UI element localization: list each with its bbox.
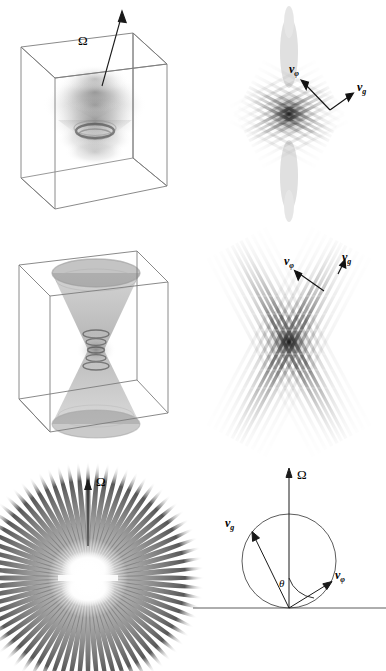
cube-shallow-svg — [0, 0, 193, 228]
burst-spokes — [0, 461, 205, 671]
panel-radial-burst-pattern: Ω — [0, 456, 193, 671]
panel-wave-beam-cross-section-shallow: vφ vg — [193, 0, 386, 228]
panel-rotating-cube-shallow-cone: Ω — [0, 0, 193, 228]
panel-wave-beam-cross-section-steep: vφ vg — [193, 228, 386, 456]
steep-hourglass-cloud — [52, 259, 140, 438]
omega-axis-arrow — [286, 468, 292, 608]
schematic-svg — [193, 456, 386, 671]
shallow-cone-cloud — [43, 65, 147, 165]
phase-velocity-label: vφ — [284, 255, 294, 270]
phase-velocity-arrow — [289, 582, 332, 609]
group-velocity-label: vg — [357, 81, 366, 96]
omega-label: Ω — [78, 34, 88, 47]
group-velocity-label: vg — [342, 251, 351, 266]
omega-label: Ω — [297, 468, 307, 481]
panel-rotating-cube-steep-cone — [0, 228, 193, 456]
group-velocity-label: vg — [225, 517, 234, 532]
beam-arms — [204, 6, 374, 222]
phase-velocity-label: vφ — [289, 63, 299, 78]
beam-shallow-svg — [193, 0, 386, 228]
cube-steep-svg — [0, 228, 193, 456]
panel-velocity-geometry-schematic: Ω vg vφ θ — [193, 456, 386, 671]
omega-label: Ω — [96, 475, 106, 488]
theta-label: θ — [279, 578, 284, 589]
phase-velocity-label: vφ — [335, 569, 345, 584]
